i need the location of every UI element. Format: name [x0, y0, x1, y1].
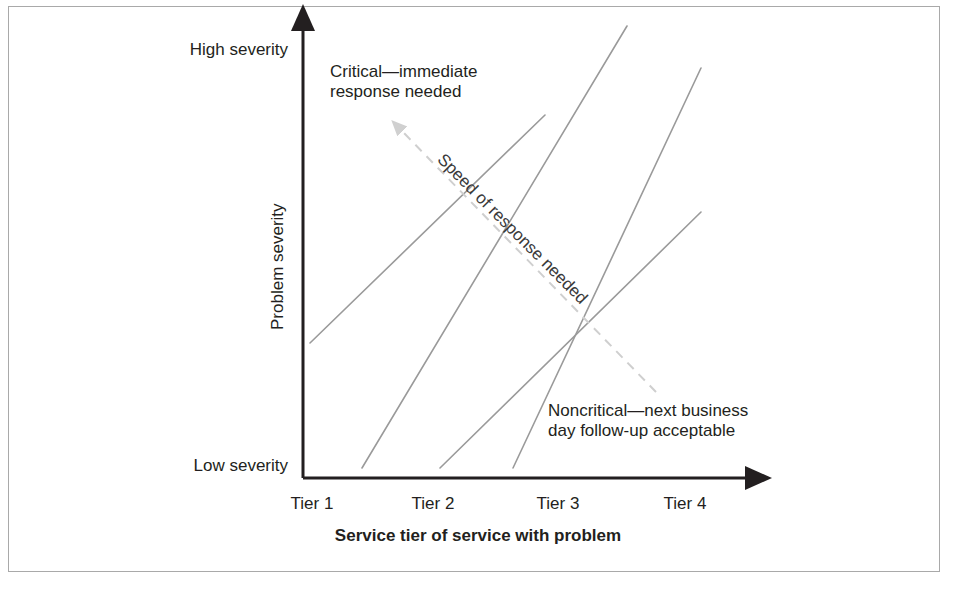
figure-root: High severity Low severity Problem sever…: [0, 0, 956, 592]
x-tick-tier-4: Tier 4: [635, 494, 735, 514]
x-tick-tier-2: Tier 2: [383, 494, 483, 514]
x-tick-tier-1: Tier 1: [262, 494, 362, 514]
annotation-critical: Critical—immediate response needed: [330, 62, 560, 102]
y-axis-high-label: High severity: [98, 40, 288, 60]
y-axis-title: Problem severity: [268, 203, 288, 330]
y-axis-low-label: Low severity: [98, 456, 288, 476]
annotation-noncritical: Noncritical—next business day follow-up …: [548, 401, 838, 441]
x-axis-title: Service tier of service with problem: [0, 526, 956, 546]
x-tick-tier-3: Tier 3: [508, 494, 608, 514]
